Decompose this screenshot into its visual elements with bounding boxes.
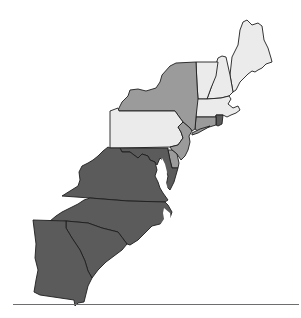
colonies-map xyxy=(0,0,301,318)
state-pennsylvania[interactable] xyxy=(110,108,183,148)
state-massachusetts[interactable] xyxy=(196,96,240,117)
state-rhode-island[interactable] xyxy=(216,115,223,126)
state-maine[interactable] xyxy=(230,20,272,92)
baseline-rule xyxy=(13,304,299,305)
